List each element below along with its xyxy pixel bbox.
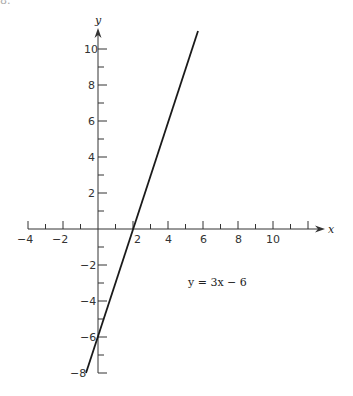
x-tick-label: 8 <box>235 233 242 246</box>
y-tick-label: −8 <box>70 367 86 380</box>
y-tick-label: 6 <box>88 115 95 128</box>
y-tick-labels: 10 8 6 4 2 −2 −4 −6 −8 <box>70 43 98 380</box>
x-tick-label: 10 <box>266 233 280 246</box>
x-tick-labels: −4 −2 2 4 6 8 10 <box>17 233 280 246</box>
x-tick-label: 6 <box>200 233 207 246</box>
x-axis <box>28 221 322 229</box>
chart: x y −4 −2 2 4 6 8 10 10 8 6 <box>0 0 353 396</box>
y-tick-label: −2 <box>80 259 96 272</box>
x-tick-label: −4 <box>17 233 33 246</box>
y-tick-label: 8 <box>88 79 95 92</box>
y-axis-label: y <box>94 14 102 27</box>
x-axis-label: x <box>328 223 335 236</box>
line-y-equals-3x-minus-6 <box>86 31 198 373</box>
equation-annotation: y = 3x − 6 <box>187 276 247 289</box>
y-tick-label: −6 <box>80 331 96 344</box>
y-tick-label: 10 <box>84 43 98 56</box>
x-tick-label: 2 <box>134 233 141 246</box>
y-tick-label: 4 <box>88 151 95 164</box>
y-tick-label: 2 <box>88 187 95 200</box>
x-tick-label: 4 <box>165 233 172 246</box>
x-tick-label: −2 <box>52 233 68 246</box>
y-tick-label: −4 <box>80 295 96 308</box>
